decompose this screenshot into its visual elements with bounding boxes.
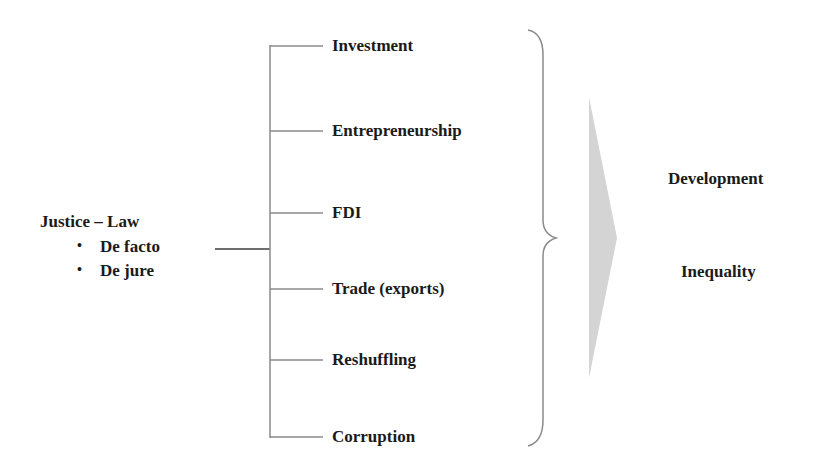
source-item-de-jure: De jure: [100, 261, 154, 281]
bullet-icon: •: [77, 262, 82, 278]
channel-fdi: FDI: [332, 203, 361, 223]
channel-investment: Investment: [332, 36, 413, 56]
channel-trade: Trade (exports): [332, 279, 445, 299]
source-title: Justice – Law: [40, 212, 139, 232]
source-item-de-facto: De facto: [100, 237, 160, 257]
channel-entrepreneurship: Entrepreneurship: [332, 121, 462, 141]
arrow-shape: [589, 97, 617, 378]
bullet-icon: •: [77, 238, 82, 254]
channel-reshuffling: Reshuffling: [332, 350, 416, 370]
right-brace: [528, 30, 556, 446]
outcome-inequality: Inequality: [681, 262, 756, 282]
outcome-development: Development: [668, 169, 763, 189]
channel-corruption: Corruption: [332, 427, 415, 447]
